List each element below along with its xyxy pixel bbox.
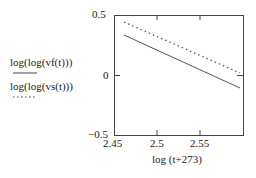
plot-area: [0, 0, 256, 178]
plot-frame: [115, 16, 244, 136]
series-vs-line: [124, 22, 240, 73]
series-vf-line: [124, 35, 240, 88]
